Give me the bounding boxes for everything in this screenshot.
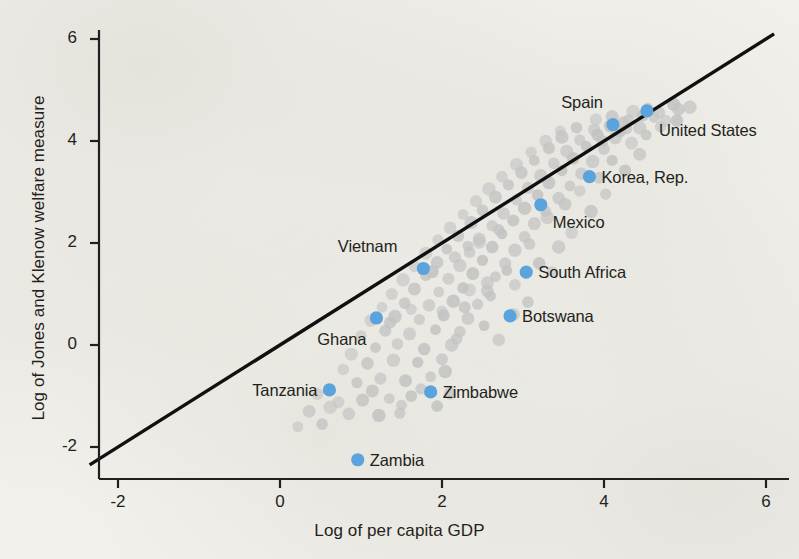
country-label: Korea, Rep. xyxy=(601,168,688,187)
data-point-other xyxy=(439,365,452,378)
data-point-other xyxy=(392,338,404,350)
scatter-plot-canvas xyxy=(0,0,799,559)
data-point-other xyxy=(560,145,573,158)
data-point-other xyxy=(425,371,436,382)
data-point-highlighted xyxy=(606,118,619,131)
data-point-other xyxy=(625,137,638,150)
data-point-other xyxy=(559,198,572,211)
data-point-other xyxy=(396,273,409,286)
data-point-other xyxy=(509,279,521,291)
data-point-other xyxy=(672,103,685,116)
country-label: Zambia xyxy=(370,451,424,470)
data-point-other xyxy=(492,334,505,347)
data-point-other xyxy=(351,377,362,388)
data-point-highlighted xyxy=(323,383,336,396)
data-point-other xyxy=(552,240,565,253)
data-point-other xyxy=(423,299,436,312)
data-point-highlighted xyxy=(520,265,533,278)
data-point-other xyxy=(501,265,512,276)
data-point-other xyxy=(458,209,469,220)
data-point-other xyxy=(436,353,448,365)
country-label: Mexico xyxy=(553,213,605,232)
data-point-other xyxy=(525,147,536,158)
data-point-other xyxy=(441,244,452,255)
data-point-other xyxy=(387,354,400,367)
data-point-other xyxy=(485,291,496,302)
country-label: Botswana xyxy=(522,307,594,326)
data-point-other xyxy=(633,148,646,161)
data-point-other xyxy=(399,374,412,387)
data-point-other xyxy=(463,283,476,296)
data-point-other xyxy=(442,273,454,285)
data-point-highlighted xyxy=(424,385,437,398)
data-point-other xyxy=(366,384,379,397)
data-point-highlighted xyxy=(417,262,430,275)
data-point-other xyxy=(370,342,381,353)
data-point-other xyxy=(451,333,463,345)
unlabeled-country-points xyxy=(292,98,696,432)
data-point-highlighted xyxy=(583,170,596,183)
data-point-other xyxy=(528,217,541,230)
x-tick-label: 0 xyxy=(255,492,305,512)
data-point-other xyxy=(574,134,585,145)
country-label: Zimbabwe xyxy=(443,383,518,402)
data-point-other xyxy=(361,357,374,370)
x-tick-label: 2 xyxy=(417,492,467,512)
data-point-other xyxy=(461,312,474,325)
data-point-other xyxy=(316,418,328,430)
data-point-other xyxy=(384,393,395,404)
data-point-other xyxy=(412,357,423,368)
data-point-other xyxy=(606,155,617,166)
data-point-highlighted xyxy=(370,311,383,324)
data-point-other xyxy=(430,324,441,335)
data-point-other xyxy=(337,364,349,376)
data-point-other xyxy=(303,405,316,418)
data-point-highlighted xyxy=(503,309,516,322)
data-point-other xyxy=(463,241,474,252)
data-point-other xyxy=(571,122,583,134)
data-point-other xyxy=(292,421,303,432)
data-point-other xyxy=(497,207,510,220)
data-point-highlighted xyxy=(534,198,547,211)
data-point-other xyxy=(444,221,457,234)
data-point-other xyxy=(626,105,639,118)
data-point-other xyxy=(481,276,494,289)
data-point-other xyxy=(356,394,369,407)
data-point-other xyxy=(472,299,483,310)
data-point-other xyxy=(384,317,396,329)
data-point-other xyxy=(496,171,508,183)
data-point-other xyxy=(683,101,696,114)
country-label: United States xyxy=(659,121,757,140)
x-axis-title: Log of per capita GDP xyxy=(0,521,799,541)
data-point-other xyxy=(641,129,652,140)
data-point-highlighted xyxy=(640,104,653,117)
data-point-other xyxy=(372,409,385,422)
data-point-other xyxy=(548,158,560,170)
data-point-other xyxy=(466,267,479,280)
data-point-other xyxy=(436,306,447,317)
data-point-other xyxy=(396,400,407,411)
data-point-other xyxy=(324,401,337,414)
data-point-other xyxy=(414,314,425,325)
data-point-other xyxy=(470,195,482,207)
data-point-other xyxy=(477,255,488,266)
data-point-other xyxy=(403,327,416,340)
data-point-other xyxy=(508,243,521,256)
country-label: Spain xyxy=(0,93,603,112)
country-label: Ghana xyxy=(0,330,366,349)
data-point-other xyxy=(405,390,417,402)
data-point-other xyxy=(343,408,356,421)
data-point-other xyxy=(433,287,444,298)
data-point-other xyxy=(565,180,576,191)
data-point-highlighted xyxy=(351,453,364,466)
data-point-other xyxy=(574,185,586,197)
data-point-other xyxy=(486,241,499,254)
data-point-other xyxy=(479,320,490,331)
data-point-other xyxy=(524,238,536,250)
data-point-other xyxy=(447,294,460,307)
data-point-other xyxy=(510,158,523,171)
data-point-other xyxy=(586,155,599,168)
y-axis-title: Log of Jones and Klenow welfare measure xyxy=(29,48,49,468)
data-point-other xyxy=(418,343,431,356)
data-point-other xyxy=(374,373,386,385)
